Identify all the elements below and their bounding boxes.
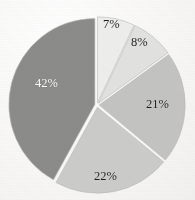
pie-slice-label: 21% (146, 98, 169, 111)
pie-slice-label: 22% (94, 170, 117, 183)
pie-slice-label: 8% (131, 36, 148, 49)
pie-chart-figure: 7%8%21%22%42% (0, 0, 195, 200)
pie-slice-label: 7% (103, 18, 120, 31)
pie-slice-label: 42% (35, 77, 58, 90)
